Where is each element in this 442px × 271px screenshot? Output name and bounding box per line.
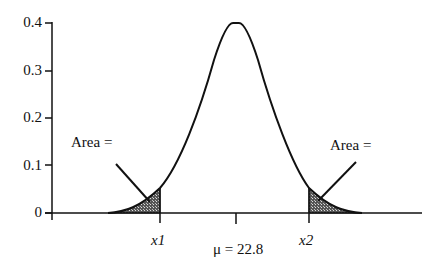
x2-label: x2 xyxy=(299,233,313,248)
y-tick-label-0.1: 0.1 xyxy=(2,158,42,173)
right-area-annotation: Area = xyxy=(330,138,371,153)
normal-distribution-chart xyxy=(0,0,442,271)
y-tick-label-0: 0 xyxy=(2,205,42,220)
left-tail-shaded-area xyxy=(108,188,160,213)
right-area-pointer xyxy=(318,162,356,201)
y-tick-label-0.2: 0.2 xyxy=(2,110,42,125)
normal-curve xyxy=(108,23,362,213)
mean-label: μ = 22.8 xyxy=(213,242,263,257)
right-tail-shaded-area xyxy=(309,188,362,213)
y-tick-label-0.3: 0.3 xyxy=(2,63,42,78)
y-tick-label-0.4: 0.4 xyxy=(2,15,42,30)
left-area-annotation: Area = xyxy=(71,135,112,150)
left-area-pointer xyxy=(116,164,150,202)
x1-label: x1 xyxy=(151,233,165,248)
